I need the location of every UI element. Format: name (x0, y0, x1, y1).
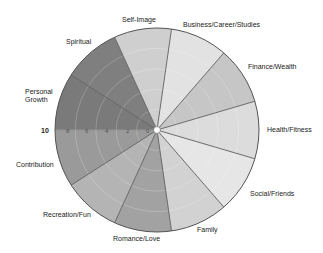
axis-tick-4: 4 (105, 128, 108, 135)
label-spiritual: Spiritual (66, 38, 91, 46)
label-social-friends: Social/Friends (250, 190, 294, 198)
axis-tick-0: 0 (146, 128, 149, 135)
label-contribution: Contribution (16, 161, 54, 169)
axis-tick-10: 10 (41, 127, 49, 134)
label-health-fitness: Health/Fitness (267, 126, 312, 134)
label-finance-wealth: Finance/Wealth (248, 63, 297, 71)
label-personal-growth: Personal Growth (25, 88, 53, 104)
label-romance-love: Romance/Love (113, 235, 160, 243)
label-self-image: Self-Image (122, 16, 156, 24)
label-personal-growth-line2: Growth (25, 96, 53, 104)
label-family: Family (197, 226, 218, 234)
label-business-career-studies: Business/Career/Studies (183, 21, 260, 29)
axis-tick-2: 2 (126, 128, 129, 135)
label-recreation-fun: Recreation/Fun (43, 211, 91, 219)
wheel-center-hub (154, 127, 161, 134)
label-personal-growth-line1: Personal (25, 88, 53, 96)
axis-tick-6: 6 (85, 128, 88, 135)
axis-tick-8: 8 (66, 128, 69, 135)
